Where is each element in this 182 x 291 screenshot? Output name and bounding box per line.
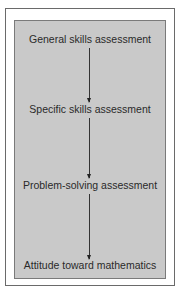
arrow-down-icon [89, 194, 90, 259]
arrow-down-icon [89, 48, 90, 102]
step-specific-skills: Specific skills assessment [15, 103, 165, 115]
diagram-frame: General skills assessment Specific skill… [5, 8, 175, 286]
step-problem-solving: Problem-solving assessment [15, 179, 165, 191]
step-general-skills: General skills assessment [15, 33, 165, 45]
arrow-down-icon [89, 118, 90, 178]
step-attitude: Attitude toward mathematics [15, 259, 165, 271]
flowchart-panel: General skills assessment Specific skill… [14, 20, 166, 279]
